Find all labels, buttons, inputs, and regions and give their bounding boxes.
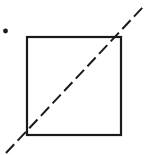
- geometry-diagram: [0, 0, 148, 155]
- point-marker: [3, 29, 8, 34]
- figure-canvas: Square with dashed diagonal and a point: [0, 0, 148, 155]
- background-rect: [0, 0, 148, 155]
